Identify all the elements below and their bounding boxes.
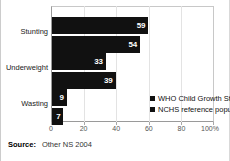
bar-underweight-who[interactable]: 33: [52, 53, 106, 70]
legend-item-who[interactable]: WHO Child Growth Standards: [150, 93, 230, 104]
category-label-underweight: Underweight: [2, 64, 48, 72]
bar-value-stunting-nchs: 54: [129, 41, 138, 49]
value-axis: 0 20 40 60 80 100%: [51, 122, 214, 136]
chart-page: Stunting Underweight Wasting 59 54: [0, 0, 230, 161]
source-label: Source:: [8, 140, 36, 149]
legend-label-nchs: NCHS reference population: [158, 106, 230, 114]
bar-row-underweight-nchs: 39: [52, 72, 214, 89]
source-row: Source: Other NS 2004: [8, 140, 92, 149]
tick-label-20: 20: [80, 125, 88, 132]
tick-label-60: 60: [145, 125, 153, 132]
legend: WHO Child Growth Standards NCHS referenc…: [150, 93, 230, 115]
legend-label-who: WHO Child Growth Standards: [158, 95, 230, 103]
legend-swatch-icon: [150, 96, 155, 101]
plot-area: 59 54 33 39: [51, 6, 214, 122]
bar-value-wasting-who: 9: [59, 94, 63, 102]
tick-label-100: 100%: [201, 125, 219, 132]
bar-group-stunting: 59 54: [52, 17, 214, 53]
bar-value-wasting-nchs: 7: [56, 113, 60, 121]
category-label-wasting: Wasting: [2, 100, 48, 108]
bar-value-underweight-who: 33: [94, 58, 103, 66]
bar-value-underweight-nchs: 39: [104, 77, 113, 85]
tick-label-0: 0: [49, 125, 53, 132]
bar-group-underweight: 33 39: [52, 53, 214, 89]
category-axis: Stunting Underweight Wasting: [1, 6, 48, 122]
tick-label-80: 80: [177, 125, 185, 132]
bar-stunting-who[interactable]: 59: [52, 17, 148, 34]
legend-item-nchs[interactable]: NCHS reference population: [150, 104, 230, 115]
tick-label-40: 40: [112, 125, 120, 132]
bar-stunting-nchs[interactable]: 54: [52, 36, 140, 53]
bar-wasting-who[interactable]: 9: [52, 89, 67, 106]
legend-swatch-icon: [150, 107, 155, 112]
category-label-stunting: Stunting: [2, 28, 48, 36]
source-value: Other NS 2004: [42, 140, 92, 149]
bar-underweight-nchs[interactable]: 39: [52, 72, 116, 89]
bar-value-stunting-who: 59: [137, 22, 146, 30]
bar-row-stunting-who: 59: [52, 17, 214, 34]
bar-row-underweight-who: 33: [52, 53, 214, 70]
bar-row-stunting-nchs: 54: [52, 36, 214, 53]
